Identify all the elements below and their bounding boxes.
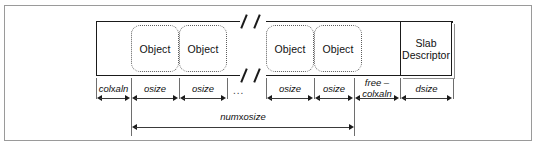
slab-descriptor-line1: Slab xyxy=(415,37,436,49)
object-cell: Object xyxy=(314,25,362,72)
tick-object-2-end xyxy=(227,78,228,99)
dim-coloring-prefix: col xyxy=(99,83,111,94)
dim-label-total: numxosize xyxy=(131,112,355,123)
slab-descriptor-box: Slab Descriptor xyxy=(400,21,452,76)
dim-label-osize: osize xyxy=(131,84,179,95)
dim-total-prefix: num xyxy=(220,111,238,122)
arrow-free xyxy=(355,95,399,102)
object-cell: Object xyxy=(131,25,179,72)
arrow-osize-2 xyxy=(180,95,226,102)
object-cell: Object xyxy=(179,25,227,72)
dim-label-osize: osize xyxy=(179,84,227,95)
arrow-total-span xyxy=(132,124,354,131)
arrow-osize-1 xyxy=(132,95,178,102)
dim-label-dsize: dsize xyxy=(400,84,453,95)
dim-label-osize: osize xyxy=(266,84,314,95)
dim-label-osize: osize xyxy=(314,84,354,95)
arrow-dsize xyxy=(401,95,452,102)
arrow-osize-3 xyxy=(267,95,313,102)
arrow-coloring xyxy=(97,95,130,102)
slab-descriptor-line2: Descriptor xyxy=(402,49,450,61)
dim-label-ellipsis: ... xyxy=(233,85,244,96)
dim-total-suffix: osize xyxy=(244,111,266,122)
slab-layout-figure: Object Object Object Object Slab Descrip… xyxy=(0,0,538,147)
dim-coloring-suffix: aln xyxy=(116,83,129,94)
object-cell: Object xyxy=(266,25,314,72)
arrow-osize-4 xyxy=(315,95,353,102)
tick-bar-end xyxy=(453,78,454,99)
dim-label-coloring: colxaln xyxy=(96,84,131,95)
